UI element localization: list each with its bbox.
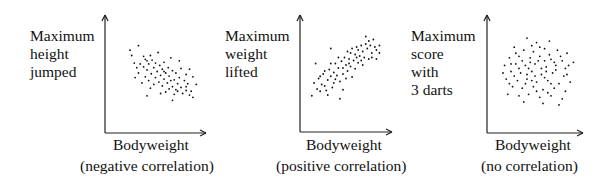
- data-points: [129, 36, 574, 106]
- scatter-plots-canvas: [0, 0, 611, 189]
- axes: [102, 15, 583, 136]
